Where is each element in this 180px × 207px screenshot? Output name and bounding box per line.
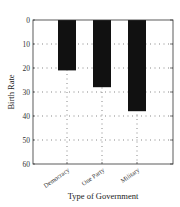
y-tick-label: 20 <box>23 64 31 73</box>
bar-one-party <box>93 20 111 87</box>
y-tick-label: 50 <box>23 136 31 145</box>
y-tick-label: 10 <box>23 40 31 49</box>
x-axis-ticks: DemocracyOne PartyMilitary <box>42 162 141 189</box>
y-axis-label: Birth Rate <box>6 74 16 109</box>
y-tick-label: 60 <box>23 160 31 169</box>
bar-chart: 0102030405060 DemocracyOne PartyMilitary… <box>0 0 180 207</box>
bar-democracy <box>58 20 76 70</box>
x-tick-label: Democracy <box>42 166 71 189</box>
x-tick-label: Military <box>119 166 141 184</box>
y-tick-label: 0 <box>26 16 30 25</box>
x-tick-label: One Party <box>80 166 106 187</box>
y-tick-label: 30 <box>23 88 31 97</box>
y-tick-label: 40 <box>23 112 31 121</box>
x-axis-label: Type of Government <box>68 191 139 201</box>
bar-military <box>128 20 146 111</box>
bars <box>58 20 146 111</box>
